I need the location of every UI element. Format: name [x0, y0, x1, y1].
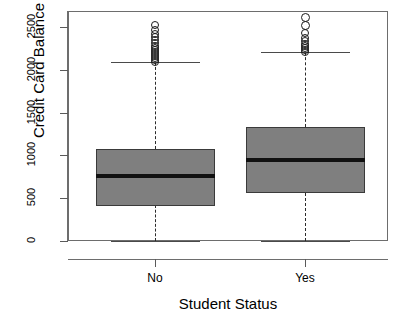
whisker-cap-lower-yes — [261, 241, 350, 242]
y-tick-1000 — [60, 155, 68, 156]
whisker-upper-no — [155, 62, 156, 149]
y-tick-label-2500: 2500 — [25, 9, 37, 43]
outlier-point — [151, 21, 159, 29]
outlier-point — [301, 29, 309, 37]
y-tick-label-0: 0 — [25, 233, 37, 247]
x-tick-label-yes: Yes — [275, 271, 335, 285]
x-axis-title: Student Status — [68, 295, 388, 312]
x-tick-yes — [305, 259, 306, 267]
y-tick-label-1000: 1000 — [25, 137, 37, 171]
y-tick-label-1500: 1500 — [25, 95, 37, 129]
outlier-point — [301, 21, 310, 30]
y-tick-label-2000: 2000 — [25, 52, 37, 86]
x-axis-line — [68, 259, 388, 260]
whisker-lower-no — [155, 205, 156, 241]
median-line-no — [96, 174, 215, 178]
y-axis-line — [67, 11, 68, 242]
whisker-lower-yes — [305, 193, 306, 241]
y-tick-1500 — [60, 113, 68, 114]
boxplot-figure: Credit Card Balance 2500 2000 1500 1000 … — [0, 0, 397, 318]
median-line-yes — [246, 158, 365, 162]
y-tick-500 — [60, 198, 68, 199]
outlier-point — [301, 13, 310, 22]
y-tick-2500 — [60, 27, 68, 28]
whisker-cap-lower-no — [111, 241, 200, 242]
x-tick-label-no: No — [125, 271, 185, 285]
whisker-upper-yes — [305, 52, 306, 127]
y-tick-0 — [60, 241, 68, 242]
x-tick-no — [155, 259, 156, 267]
plot-area — [68, 11, 388, 241]
y-tick-label-500: 500 — [25, 184, 37, 210]
y-tick-2000 — [60, 70, 68, 71]
